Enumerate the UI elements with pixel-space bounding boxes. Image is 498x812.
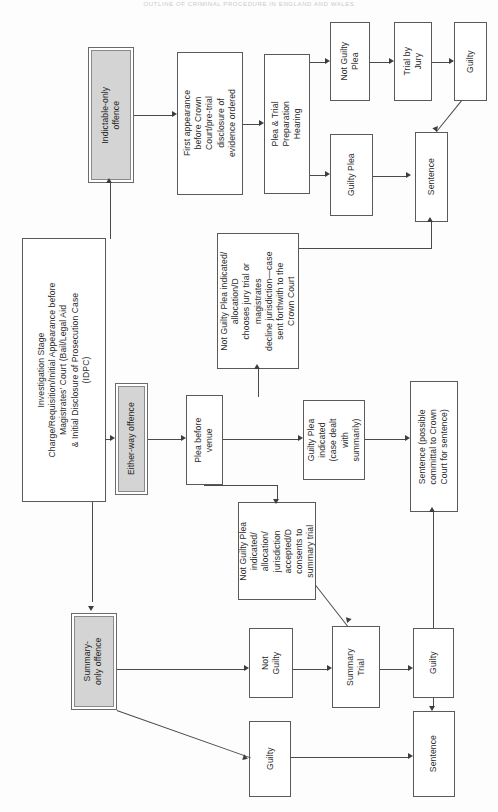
node-sentence-mags-label: Sentence bbox=[428, 735, 439, 772]
connector-indictable-to-first-appearance bbox=[134, 115, 172, 116]
node-summary-only-offence-label: Summary- only offence bbox=[83, 638, 105, 685]
connector-summary-only-to-guilty-plea-mags bbox=[117, 710, 251, 758]
node-not-guilty-mags: Not Guilty bbox=[249, 628, 293, 698]
arrowhead-guilty-plea-mags-to-sentence-mags bbox=[408, 753, 413, 759]
node-plea-before-venue: Plea before venue bbox=[186, 395, 223, 485]
node-guilty-plea-mags-label: Guilty bbox=[264, 748, 275, 771]
node-either-way-offence-label: Either-way offence bbox=[126, 403, 137, 476]
node-guilty-plea-mags: Guilty bbox=[249, 721, 291, 797]
arrowhead-guilty-mags-to-sentence-mags bbox=[429, 706, 435, 711]
arrowhead-plea-before-venue-to-guilty-plea-summary bbox=[298, 435, 303, 441]
arrowhead-not-guilty-mags-to-summary-trial bbox=[327, 665, 332, 671]
arrowhead-not-guilty-plea-to-trial-by-jury bbox=[389, 58, 394, 64]
node-not-guilty-allocation-summary: Not Guilty Plea indicated/ allocation/ j… bbox=[238, 502, 316, 600]
node-guilty-plea-summary-label: Guilty Plea indicated (case dealt with s… bbox=[306, 418, 362, 461]
connector-plea-before-venue-to-allocation-summary bbox=[277, 485, 278, 499]
connector-allocation-crown-to-sentence-crown bbox=[431, 222, 432, 248]
arrowhead-ptph-to-not-guilty-plea bbox=[325, 58, 330, 64]
connector-guilty-mags-to-sentence-mags bbox=[433, 698, 434, 706]
node-first-appearance-label: First appearance before Crown Court/pre-… bbox=[182, 89, 238, 157]
node-sentence-committal: Sentence (possible committal to Crown Co… bbox=[410, 381, 458, 512]
arrowhead-summary-only-to-guilty-plea-mags bbox=[242, 755, 249, 762]
node-guilty-crown: Guilty bbox=[454, 22, 487, 101]
connector-summary-trial-to-guilty-mags bbox=[380, 669, 408, 670]
node-guilty-plea-crown-label: Guilty Plea bbox=[346, 154, 357, 197]
node-guilty-crown-label: Guilty bbox=[465, 50, 476, 73]
connector-plea-before-venue-down-leg bbox=[204, 485, 278, 486]
connector-guilty-plea-crown-to-sentence-crown bbox=[373, 176, 406, 177]
arrowhead-guilty-plea-crown-to-sentence-crown bbox=[406, 172, 411, 178]
connector-not-guilty-plea-to-trial-by-jury bbox=[370, 62, 389, 63]
node-sentence-crown: Sentence bbox=[415, 132, 448, 222]
connector-either-way-to-plea-before-venue bbox=[148, 439, 181, 440]
node-investigation-stage-label: Investigation Stage Charge/Requisition/I… bbox=[36, 283, 92, 458]
arrowhead-guilty-mags-to-sentence-committal bbox=[429, 507, 435, 512]
node-not-guilty-allocation-crown-label: Not Guilty Plea indicated/ allocation/D … bbox=[219, 251, 297, 350]
flowchart-page: OUTLINE OF CRIMINAL PROCEDURE IN ENGLAND… bbox=[0, 0, 498, 812]
node-ptph-label: Plea & Trial Preparation Hearing bbox=[270, 101, 304, 147]
node-not-guilty-allocation-crown: Not Guilty Plea indicated/ allocation/D … bbox=[217, 233, 299, 369]
node-summary-only-offence-inner: Summary- only offence bbox=[74, 616, 114, 707]
arrowhead-indictable-to-first-appearance bbox=[172, 111, 177, 117]
node-not-guilty-mags-label: Not Guilty bbox=[260, 652, 282, 675]
arrowhead-summary-only-to-not-guilty-mags bbox=[244, 665, 249, 671]
connector-guilty-crown-to-sentence-crown bbox=[436, 100, 462, 132]
connector-guilty-plea-summary-to-sentence-committal bbox=[365, 439, 405, 440]
node-sentence-crown-label: Sentence bbox=[426, 158, 437, 195]
arrowhead-guilty-plea-summary-to-sentence-committal bbox=[405, 435, 410, 441]
connector-ptph-to-guilty-plea bbox=[310, 175, 325, 176]
node-investigation-stage: Investigation Stage Charge/Requisition/I… bbox=[22, 238, 106, 502]
node-guilty-mags: Guilty bbox=[413, 628, 454, 698]
arrowhead-first-appearance-to-ptph bbox=[259, 120, 264, 126]
node-not-guilty-plea-crown-label: Not Guilty Plea bbox=[339, 42, 361, 81]
node-first-appearance: First appearance before Crown Court/pre-… bbox=[177, 52, 243, 195]
node-guilty-mags-label: Guilty bbox=[428, 652, 439, 675]
node-guilty-plea-crown: Guilty Plea bbox=[330, 134, 373, 216]
connector-plea-before-venue-to-guilty-plea-summary bbox=[223, 439, 298, 440]
connector-guilty-plea-mags-to-sentence-mags bbox=[291, 757, 408, 758]
node-summary-only-offence: Summary- only offence bbox=[71, 613, 117, 710]
connector-ptph-to-not-guilty-plea bbox=[310, 62, 325, 63]
node-summary-trial: Summary Trial bbox=[332, 626, 380, 708]
arrowhead-investigation-to-summary-only bbox=[88, 606, 94, 611]
connector-summary-only-to-not-guilty-mags bbox=[117, 669, 244, 670]
running-header: OUTLINE OF CRIMINAL PROCEDURE IN ENGLAND… bbox=[0, 0, 498, 9]
arrowhead-investigation-to-either-way bbox=[110, 435, 115, 441]
connector-plea-before-venue-to-allocation-crown bbox=[258, 369, 259, 397]
arrowhead-trial-by-jury-to-guilty bbox=[449, 58, 454, 64]
connector-trial-by-jury-to-guilty bbox=[432, 62, 449, 63]
node-either-way-offence: Either-way offence bbox=[115, 383, 148, 495]
node-summary-trial-label: Summary Trial bbox=[345, 648, 367, 685]
node-indictable-only-offence-inner: Indictable-only offence bbox=[91, 50, 131, 180]
arrowhead-allocation-crown-to-sentence-crown bbox=[427, 217, 433, 222]
arrowhead-ptph-to-guilty-plea bbox=[325, 171, 330, 177]
node-plea-before-venue-label: Plea before venue bbox=[193, 417, 215, 462]
node-not-guilty-allocation-summary-label: Not Guilty Plea indicated/ allocation/ j… bbox=[238, 522, 316, 581]
connector-investigation-to-indictable bbox=[110, 183, 111, 239]
connector-allocation-summary-to-summary-trial bbox=[315, 585, 348, 627]
node-indictable-only-offence-label: Indictable-only offence bbox=[100, 87, 122, 144]
node-sentence-committal-label: Sentence (possible committal to Crown Co… bbox=[417, 409, 451, 484]
arrowhead-summary-trial-to-guilty-mags bbox=[408, 665, 413, 671]
connector-not-guilty-mags-to-summary-trial bbox=[293, 669, 327, 670]
connector-investigation-to-summary-only bbox=[92, 502, 93, 602]
node-ptph: Plea & Trial Preparation Hearing bbox=[264, 54, 310, 194]
node-guilty-plea-summary: Guilty Plea indicated (case dealt with s… bbox=[303, 400, 365, 480]
node-not-guilty-plea-crown: Not Guilty Plea bbox=[330, 22, 370, 101]
node-trial-by-jury-label: Trial by Jury bbox=[402, 47, 424, 76]
arrowhead-plea-before-venue-to-allocation-crown bbox=[254, 364, 260, 369]
connector-allocation-crown-riser bbox=[299, 248, 432, 249]
arrowhead-either-way-to-plea-before-venue bbox=[181, 435, 186, 441]
node-trial-by-jury: Trial by Jury bbox=[394, 22, 432, 101]
arrowhead-plea-before-venue-to-allocation-summary bbox=[273, 499, 279, 504]
node-indictable-only-offence: Indictable-only offence bbox=[88, 47, 134, 183]
node-sentence-mags: Sentence bbox=[413, 711, 455, 797]
connector-guilty-mags-to-sentence-committal bbox=[433, 512, 434, 628]
connector-first-appearance-to-ptph bbox=[243, 124, 259, 125]
arrowhead-investigation-to-indictable bbox=[106, 178, 112, 183]
node-either-way-offence-inner: Either-way offence bbox=[118, 386, 145, 492]
